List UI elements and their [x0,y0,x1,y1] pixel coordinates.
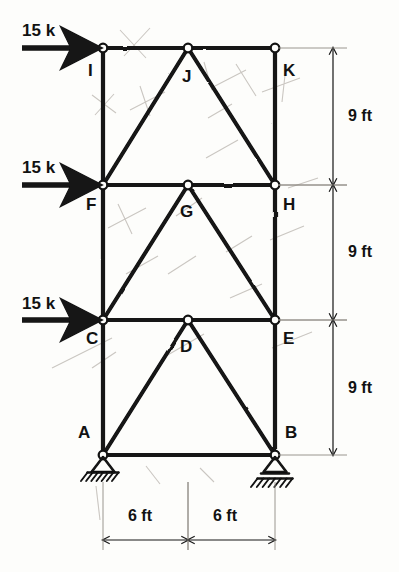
joint-group [99,44,280,460]
load-at-F-label: 15 k [22,159,55,176]
joint-label-e: E [283,330,294,347]
joint-j [184,44,193,53]
pencil-scribbles [52,28,318,520]
diagonal-D-B [188,320,275,455]
load-at-C-label: 15 k [22,295,55,312]
joint-label-j: J [182,68,191,85]
bay-width-right-label: 6 ft [213,508,237,524]
story-height-bottom-label: 9 ft [348,380,372,396]
joint-label-a: A [78,424,90,441]
diagonal-C-G [103,185,188,320]
member-group [103,48,275,455]
joint-label-h: H [283,196,295,213]
load-at-I-label: 15 k [22,22,55,39]
diagonal-J-H [188,48,275,185]
joint-label-i: I [88,62,93,79]
diagonal-A-D [103,320,188,455]
joint-label-b: B [285,424,297,441]
joint-d [184,316,193,325]
roller-support-B [251,457,293,487]
pin-support-A [81,457,119,481]
joint-label-f: F [86,196,96,213]
bay-width-left-label: 6 ft [128,508,152,524]
joint-g [184,181,193,190]
truss-drawing [0,0,399,572]
joint-label-c: C [86,330,98,347]
diagonal-G-E [188,185,275,320]
load-arrow-group [22,48,96,320]
truss-diagram-canvas: ABCDEFGHIJK15 k15 k15 k9 ft9 ft9 ft6 ft6… [0,0,399,572]
joint-label-k: K [283,62,295,79]
joint-label-d: D [180,338,192,355]
joint-label-g: G [180,203,193,220]
joint-f [99,181,108,190]
joint-c [99,316,108,325]
support-group [81,457,293,487]
diagonal-F-J [103,48,188,185]
story-height-top-label: 9 ft [348,108,372,124]
story-height-middle-label: 9 ft [348,244,372,260]
joint-i [99,44,108,53]
